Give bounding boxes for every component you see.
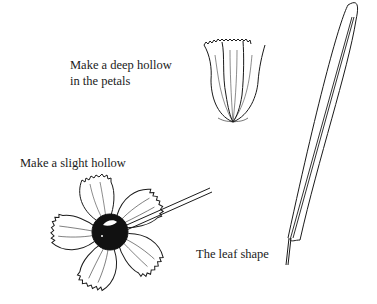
- leaf-icon: [0, 0, 377, 304]
